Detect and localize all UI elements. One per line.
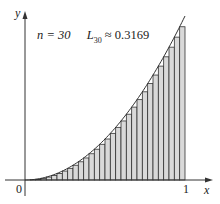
annotation: n = 30 L30 ≈ 0.3169 [37, 28, 149, 45]
rectangle [84, 158, 89, 180]
rectangle [148, 84, 153, 180]
rectangle [52, 175, 57, 180]
rectangle [142, 92, 147, 180]
rectangle [132, 107, 137, 180]
l-label: L [87, 28, 94, 42]
rectangle [62, 171, 67, 180]
rectangle [89, 154, 94, 180]
rectangle [105, 139, 110, 180]
left-rectangles [30, 27, 185, 180]
rectangle [68, 168, 73, 180]
l-value: ≈ 0.3169 [105, 28, 149, 42]
origin-tick-label: 0 [16, 182, 22, 197]
rectangle [164, 57, 169, 180]
rectangle [180, 27, 185, 180]
rectangle [174, 37, 179, 180]
rectangle [78, 162, 83, 180]
rectangle [100, 144, 105, 180]
y-axis-arrow-icon [23, 11, 28, 19]
rectangle [137, 100, 142, 180]
x-axis-label: x [204, 183, 209, 198]
l-subscript: 30 [94, 36, 102, 45]
rectangle [158, 66, 163, 180]
one-tick-label: 1 [183, 182, 189, 197]
rectangle [110, 133, 115, 180]
n-label: n = 30 [37, 28, 70, 42]
rectangle [94, 149, 99, 180]
x-axis-arrow-icon [205, 178, 213, 183]
rectangle [57, 173, 62, 180]
rectangle [116, 127, 121, 180]
rectangle [121, 121, 126, 180]
rectangle [169, 47, 174, 180]
rectangle [153, 75, 158, 180]
rectangle [126, 114, 131, 180]
y-axis-label: y [15, 6, 20, 21]
rectangle [73, 165, 78, 180]
